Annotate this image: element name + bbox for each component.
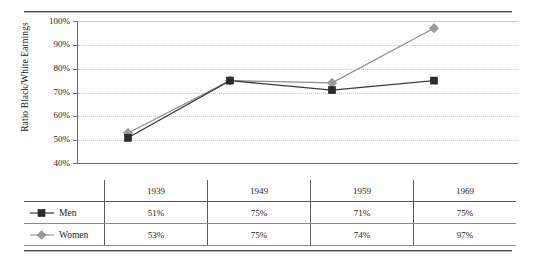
cell-men-1949: 75% — [208, 202, 311, 224]
legend-label-women: Women — [59, 230, 88, 240]
cell-men-1939: 51% — [105, 202, 208, 224]
square-marker-icon — [30, 208, 54, 218]
data-point-men-1969 — [431, 77, 438, 84]
data-point-women-1969 — [430, 24, 439, 33]
bottom-divider-rule — [24, 250, 512, 252]
data-table-wrapper: 1939 1949 1959 1969 Men — [24, 180, 512, 244]
cell-women-1949: 75% — [208, 224, 311, 246]
table-header-1939: 1939 — [105, 180, 208, 202]
table-header-1949: 1949 — [208, 180, 311, 202]
cell-women-1939: 53% — [105, 224, 208, 246]
series-line-women — [128, 28, 434, 133]
y-tick-label-60: 60% — [18, 111, 70, 120]
legend-label-men: Men — [59, 208, 76, 218]
plot-box — [77, 21, 518, 164]
y-tick-label-70: 70% — [18, 88, 70, 97]
data-table: 1939 1949 1959 1969 Men — [24, 180, 516, 246]
table-header-row: 1939 1949 1959 1969 — [24, 180, 516, 202]
cell-women-1959: 74% — [311, 224, 414, 246]
table-row: Women 53% 75% 74% 97% — [24, 224, 516, 246]
table-row: Men 51% 75% 71% 75% — [24, 202, 516, 224]
data-point-men-1959 — [329, 87, 336, 94]
cell-men-1969: 75% — [414, 202, 517, 224]
y-tick-label-90: 90% — [18, 40, 70, 49]
data-point-women-1959 — [328, 78, 337, 87]
data-point-men-1939 — [125, 134, 132, 141]
data-point-men-1949 — [227, 77, 234, 84]
cell-men-1959: 71% — [311, 202, 414, 224]
y-tick-label-40: 40% — [18, 159, 70, 168]
y-tick-label-80: 80% — [18, 64, 70, 73]
legend-entry-women: Women — [24, 224, 105, 246]
diamond-marker-icon — [30, 230, 54, 240]
y-axis-title: Ratio Black/White Earnings — [20, 12, 30, 142]
table-corner-cell — [24, 180, 105, 202]
top-divider-rule — [24, 11, 512, 13]
chart-figure: Ratio Black/White Earnings 100% 90% 80% … — [0, 0, 536, 261]
table-header-1959: 1959 — [311, 180, 414, 202]
y-tick-label-100: 100% — [18, 17, 70, 26]
chart-plot-region: Ratio Black/White Earnings 100% 90% 80% … — [0, 14, 536, 180]
series-drawing-layer — [77, 21, 518, 164]
legend-entry-men: Men — [24, 202, 105, 224]
y-tick-label-50: 50% — [18, 135, 70, 144]
cell-women-1969: 97% — [414, 224, 517, 246]
table-header-1969: 1969 — [414, 180, 517, 202]
